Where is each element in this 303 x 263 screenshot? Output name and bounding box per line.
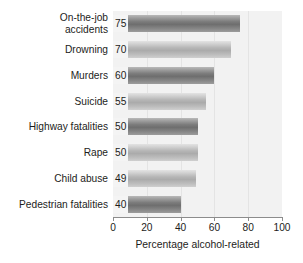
category-label: On-the-jobaccidents: [0, 12, 108, 35]
bar-value-label: 50: [113, 118, 128, 135]
bar-value-label: 70: [113, 41, 128, 58]
bar-chart: On-the-jobaccidentsDrowningMurdersSuicid…: [0, 0, 303, 263]
bar-row: 49: [113, 170, 282, 187]
x-axis-tick-label: 80: [243, 222, 254, 233]
x-axis-tick: [181, 217, 182, 221]
category-label: Pedestrian fatalities: [19, 199, 108, 210]
bar-row: 50: [113, 144, 282, 161]
x-axis-line: [113, 217, 282, 218]
category-label: Rape: [84, 147, 108, 158]
bar-value-label: 40: [113, 196, 128, 213]
x-axis-tick: [113, 217, 114, 221]
category-label: Highway fatalities: [29, 121, 108, 132]
bar-row: 40: [113, 196, 282, 213]
x-axis-tick: [214, 217, 215, 221]
bar-row: 60: [113, 67, 282, 84]
plot-area: 7570605550504940: [113, 11, 282, 217]
x-axis-tick-label: 40: [175, 222, 186, 233]
category-axis-labels: On-the-jobaccidentsDrowningMurdersSuicid…: [0, 11, 111, 217]
bar-value-label: 60: [113, 67, 128, 84]
x-axis-tick: [282, 217, 283, 221]
x-axis-tick-label: 100: [274, 222, 291, 233]
category-label: Child abuse: [54, 173, 108, 184]
bar-row: 50: [113, 118, 282, 135]
category-label: Drowning: [65, 44, 108, 55]
bar: [113, 15, 240, 32]
x-axis-tick-label: 20: [141, 222, 152, 233]
bar-value-label: 75: [113, 15, 128, 32]
x-axis-tick: [248, 217, 249, 221]
x-axis-tick-label: 60: [209, 222, 220, 233]
category-label: Suicide: [75, 96, 108, 107]
bar-value-label: 49: [113, 170, 128, 187]
bar-row: 70: [113, 41, 282, 58]
x-axis-title: Percentage alcohol-related: [113, 239, 282, 250]
bar-row: 55: [113, 93, 282, 110]
x-axis-tick-label: 0: [110, 222, 116, 233]
bar-value-label: 55: [113, 93, 128, 110]
category-label: Murders: [71, 70, 108, 81]
x-axis-tick: [147, 217, 148, 221]
bar: [113, 41, 231, 58]
bar-value-label: 50: [113, 144, 128, 161]
bar-row: 75: [113, 15, 282, 32]
